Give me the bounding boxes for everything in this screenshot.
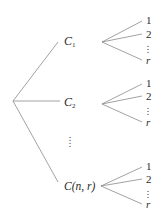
- leaf-c2-r: r: [146, 117, 150, 128]
- leaf-cnr-1: 1: [146, 161, 152, 172]
- leaf-c1-r: r: [146, 55, 150, 66]
- leaf-c2-ellipsis: ...: [146, 104, 150, 113]
- leaf-c1-1: 1: [146, 15, 152, 26]
- node-c1: C1: [64, 35, 76, 51]
- node-ellipsis: ....: [68, 133, 72, 145]
- node-cnr: C(n, r): [64, 180, 95, 192]
- node-c1-subscript: 1: [72, 41, 76, 49]
- node-c1-main: C: [64, 34, 72, 48]
- leaf-c1-ellipsis: ...: [146, 42, 150, 51]
- node-c2-subscript: 2: [72, 102, 76, 110]
- node-c2-main: C: [64, 95, 72, 109]
- tree-diagram: C1 C2 .... C(n, r) 1 2 ... r 1 2 ... r 1…: [0, 0, 164, 224]
- node-c2: C2: [64, 96, 76, 112]
- leaf-c2-1: 1: [146, 78, 152, 89]
- leaf-cnr-r: r: [146, 199, 150, 210]
- leaf-cnr-ellipsis: ...: [146, 187, 150, 196]
